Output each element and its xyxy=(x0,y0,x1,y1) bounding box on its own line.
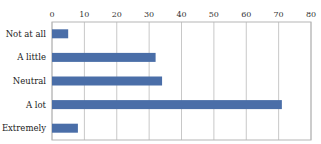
category-label: Not at all xyxy=(6,29,47,39)
x-tick-label: 20 xyxy=(112,10,122,19)
bar-neutral xyxy=(52,77,162,86)
x-tick-label: 60 xyxy=(241,10,251,19)
x-tick-label: 10 xyxy=(79,10,89,19)
bar-a-little xyxy=(52,53,156,62)
x-tick-label: 40 xyxy=(176,10,186,19)
bar-not-at-all xyxy=(52,29,68,38)
x-tick-label: 80 xyxy=(306,10,316,19)
x-tick-label: 70 xyxy=(274,10,284,19)
x-tick-label: 50 xyxy=(209,10,219,19)
category-label: A lot xyxy=(25,100,47,110)
x-tick-label: 30 xyxy=(144,10,154,19)
x-tick-label: 0 xyxy=(49,10,54,19)
bars xyxy=(52,29,282,132)
category-labels: Not at allA littleNeutralA lotExtremely xyxy=(2,29,47,133)
category-label: Extremely xyxy=(2,123,46,133)
bar-chart: 01020304050607080 Not at allA littleNeut… xyxy=(0,0,321,144)
x-axis-ticks: 01020304050607080 xyxy=(49,10,316,19)
category-label: A little xyxy=(16,52,46,62)
bar-extremely xyxy=(52,124,78,133)
bar-a-lot xyxy=(52,100,282,109)
category-label: Neutral xyxy=(13,76,46,86)
